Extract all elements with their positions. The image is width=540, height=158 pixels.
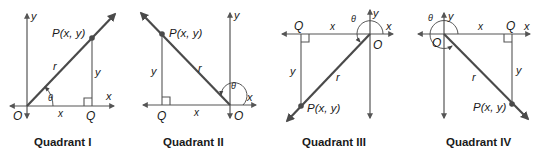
foot-label: Q	[157, 109, 166, 123]
point-label: P(x, y)	[307, 102, 340, 114]
foot-label: Q	[506, 19, 515, 33]
hypotenuse-label: r	[336, 71, 341, 83]
hypotenuse-label: r	[198, 62, 203, 74]
point-label: P(x, y)	[52, 27, 85, 39]
x-axis-label: x	[246, 91, 253, 103]
point-p	[89, 35, 95, 41]
quadrant-caption: Quadrant III	[302, 136, 366, 148]
point-p	[298, 103, 304, 109]
foot-label: Q	[86, 109, 95, 123]
y-axis-label: y	[30, 10, 38, 22]
horizontal-side-label: x	[329, 21, 336, 32]
point-label: P(x, y)	[169, 27, 202, 39]
right-angle-mark	[301, 34, 309, 42]
y-axis-label: y	[372, 7, 380, 19]
quadrant-1-panel: y x P(x, y) r y θ O x Q Quadrant I	[10, 10, 115, 148]
right-angle-mark	[162, 97, 170, 105]
angle-label: θ	[231, 81, 236, 91]
quadrant-caption: Quadrant II	[163, 136, 224, 148]
x-axis-label: x	[105, 90, 112, 102]
horizontal-side-label: x	[477, 21, 484, 32]
angle-label: θ	[48, 93, 53, 103]
hypotenuse-label: r	[472, 71, 477, 83]
quadrant-4-panel: θ y x Q x O y r P(x, y) Quadrant IV	[418, 10, 530, 148]
point-label: P(x, y)	[473, 101, 506, 113]
right-angle-mark	[504, 34, 512, 42]
quadrant-2-panel: y x P(x, y) r y θ Q x O Quadrant II	[141, 9, 256, 148]
vertical-side-label: y	[289, 65, 297, 77]
vertical-side-label: y	[515, 64, 523, 76]
x-axis-label: x	[385, 20, 392, 32]
origin-label: O	[13, 109, 22, 123]
angle-label: θ	[351, 14, 356, 24]
hypotenuse-label: r	[53, 60, 58, 72]
point-p	[159, 31, 165, 37]
point-p	[509, 101, 515, 107]
foot-label: Q	[294, 19, 303, 33]
quadrant-diagrams: y x P(x, y) r y θ O x Q Quadrant I y x P…	[0, 0, 540, 158]
quadrant-3-panel: y x Q x θ O y r P(x, y) Quadrant III	[282, 7, 393, 148]
horizontal-side-label: x	[57, 108, 64, 119]
y-axis-label: y	[233, 9, 241, 21]
y-axis-label: y	[447, 10, 455, 22]
x-axis-label: x	[523, 20, 530, 32]
origin-label: O	[234, 109, 243, 123]
origin-label: O	[432, 36, 441, 50]
quadrant-caption: Quadrant IV	[446, 136, 512, 148]
angle-label: θ	[428, 13, 433, 23]
horizontal-side-label: x	[193, 107, 200, 118]
vertical-side-label: y	[150, 65, 158, 77]
vertical-side-label: y	[94, 66, 102, 78]
right-angle-mark	[84, 98, 92, 106]
quadrant-caption: Quadrant I	[34, 136, 92, 148]
origin-label: O	[373, 38, 382, 52]
